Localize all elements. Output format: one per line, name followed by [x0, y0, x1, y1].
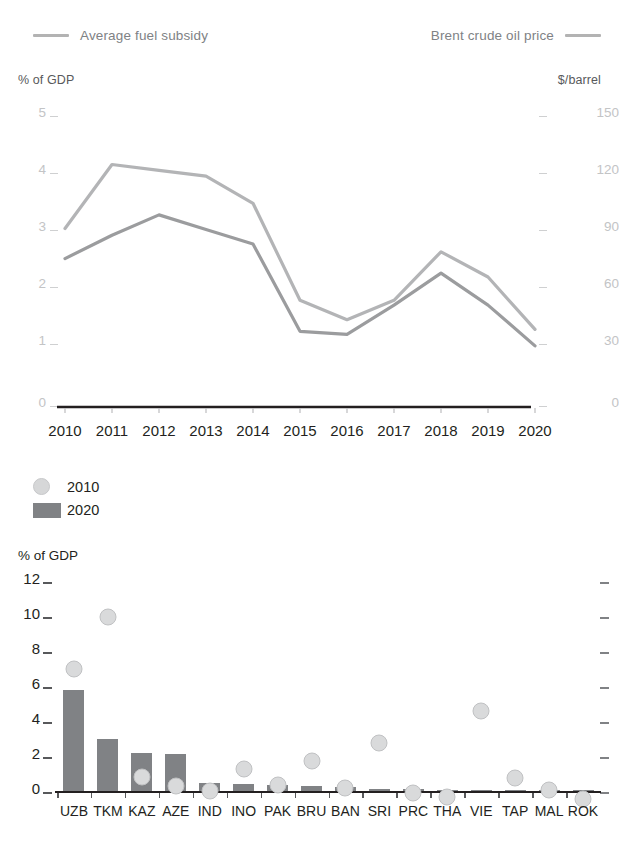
line-chart-series-group	[65, 165, 535, 414]
bar-y-tick-mark	[43, 722, 52, 724]
line-x-tick-2010: 2010	[48, 422, 81, 439]
line-left-tick-5: 5	[0, 105, 46, 120]
bar-x-tick-mark	[125, 793, 127, 798]
line-swatch-icon	[565, 34, 601, 37]
bar-y-tick-6: 6	[0, 675, 40, 692]
bar-2020-tkm	[97, 739, 118, 791]
line-left-tick-mark	[50, 173, 58, 174]
bar-x-tick-tap: TAP	[502, 803, 528, 819]
dot-2010-vie	[473, 702, 490, 719]
line-x-tick-2016: 2016	[330, 422, 363, 439]
line-x-tick-2014: 2014	[236, 422, 269, 439]
circle-marker-icon	[33, 478, 50, 495]
bar-y-tick-0: 0	[0, 780, 40, 797]
line-chart: Average fuel subsidy Brent crude oil pri…	[0, 0, 619, 462]
bar-x-tick-tkm: TKM	[93, 803, 123, 819]
bar-x-tick-mark	[329, 793, 331, 798]
bar-x-tick-mark	[295, 793, 297, 798]
bar-y-tick-mark-right	[600, 582, 609, 584]
bar-x-tick-mark	[362, 793, 364, 798]
line-series-average-fuel-subsidy	[65, 215, 535, 346]
bar-x-tick-mark	[464, 793, 466, 798]
bar-x-tick-ind: IND	[198, 803, 222, 819]
bar-y-tick-mark	[43, 687, 52, 689]
line-left-tick-mark	[50, 406, 58, 407]
bar-2020-sri	[369, 789, 390, 791]
line-right-tick-150: 150	[559, 105, 619, 120]
line-x-tick-2018: 2018	[424, 422, 457, 439]
bar-2020-uzb	[63, 690, 84, 791]
line-right-axis-title: $/barrel	[558, 73, 601, 87]
bar-x-tick-mark	[430, 793, 432, 798]
bar-x-tick-mark	[261, 793, 263, 798]
bar-x-tick-mark	[57, 793, 59, 798]
line-x-tick-2012: 2012	[142, 422, 175, 439]
line-left-tick-mark	[50, 116, 58, 117]
line-left-tick-2: 2	[0, 276, 46, 291]
bar-y-tick-8: 8	[0, 640, 40, 657]
bar-y-tick-mark	[43, 792, 52, 794]
bar-y-tick-mark	[43, 617, 52, 619]
bar-y-tick-2: 2	[0, 745, 40, 762]
dot-2010-bru	[303, 753, 320, 770]
bar-x-tick-mark	[498, 793, 500, 798]
legend-label-2010: 2010	[67, 479, 99, 495]
line-left-tick-4: 4	[0, 162, 46, 177]
line-right-tick-mark	[539, 116, 547, 117]
bar-y-tick-10: 10	[0, 605, 40, 622]
line-x-tick-2011: 2011	[96, 422, 128, 439]
bar-y-tick-mark	[43, 652, 52, 654]
dot-2010-mal	[541, 781, 558, 798]
dot-2010-sri	[371, 735, 388, 752]
bar-chart-y-axis-title: % of GDP	[18, 548, 78, 563]
legend-item-2010: 2010	[33, 478, 99, 495]
bar-x-tick-kaz: KAZ	[128, 803, 155, 819]
bar-y-tick-mark-right	[600, 792, 609, 794]
line-right-tick-90: 90	[559, 219, 619, 234]
bar-x-tick-mark	[227, 793, 229, 798]
line-x-tick-2019: 2019	[471, 422, 504, 439]
chart-page: Average fuel subsidy Brent crude oil pri…	[0, 0, 619, 868]
line-left-tick-mark	[50, 287, 58, 288]
bar-x-tick-ban: BAN	[331, 803, 360, 819]
line-chart-plot	[0, 0, 619, 462]
line-swatch-icon	[33, 34, 69, 37]
bar-x-tick-tha: THA	[433, 803, 461, 819]
bar-y-tick-mark-right	[600, 757, 609, 759]
bar-x-tick-aze: AZE	[162, 803, 189, 819]
dot-2010-uzb	[65, 660, 82, 677]
line-x-tick-2020: 2020	[518, 422, 551, 439]
line-right-tick-mark	[539, 344, 547, 345]
bar-y-tick-mark-right	[600, 652, 609, 654]
bar-y-tick-mark-right	[600, 722, 609, 724]
line-right-tick-mark	[539, 406, 547, 407]
legend-label-2020: 2020	[67, 502, 99, 518]
legend-item-brent-crude-oil-price: Brent crude oil price	[431, 26, 601, 44]
line-x-tick-2013: 2013	[189, 422, 222, 439]
dot-2010-prc	[405, 784, 422, 801]
bar-y-tick-mark	[43, 582, 52, 584]
line-right-tick-120: 120	[559, 162, 619, 177]
bar-marker-icon	[33, 503, 61, 518]
dot-2010-ino	[235, 761, 252, 778]
bar-chart: 2010 2020 % of GDP 12 10 8 6 4 2 0 UZBTK…	[0, 470, 619, 868]
legend-item-average-fuel-subsidy: Average fuel subsidy	[33, 26, 208, 44]
bar-y-tick-mark-right	[600, 617, 609, 619]
dot-2010-pak	[269, 776, 286, 793]
dot-2010-tap	[507, 770, 524, 787]
line-right-tick-mark	[539, 230, 547, 231]
bar-x-tick-mark	[396, 793, 398, 798]
bar-x-tick-prc: PRC	[399, 803, 429, 819]
dot-2010-ban	[337, 780, 354, 797]
line-left-tick-0: 0	[0, 395, 46, 410]
bar-y-tick-mark	[43, 757, 52, 759]
bar-x-tick-mark	[91, 793, 93, 798]
bar-2020-bru	[301, 786, 322, 791]
bar-x-tick-mark	[566, 793, 568, 798]
bar-x-tick-pak: PAK	[264, 803, 291, 819]
line-right-tick-mark	[539, 287, 547, 288]
line-right-tick-mark	[539, 173, 547, 174]
bar-y-tick-mark-right	[600, 687, 609, 689]
bar-x-tick-mark	[193, 793, 195, 798]
bar-x-tick-mark	[159, 793, 161, 798]
